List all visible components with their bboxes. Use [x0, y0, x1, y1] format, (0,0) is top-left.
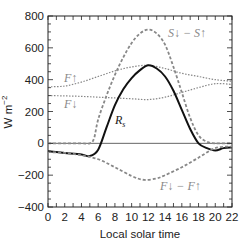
x-tick-label: 12 — [142, 211, 155, 223]
y-tick-label: 200 — [25, 106, 44, 118]
y-tick-label: 800 — [25, 10, 44, 22]
x-axis-label: Local solar time — [100, 228, 181, 240]
x-tick-label: 0 — [45, 211, 51, 223]
annotation-f-net: F↓ − F↑ — [159, 179, 201, 193]
series-ss-line — [48, 30, 232, 144]
x-tick-label: 2 — [62, 211, 68, 223]
x-tick-label: 4 — [78, 211, 85, 223]
x-tick-label: 20 — [209, 211, 222, 223]
y-tick-label: 600 — [25, 42, 44, 54]
y-tick-label: 400 — [25, 74, 44, 86]
y-tick-label: −400 — [18, 201, 44, 213]
y-axis-label: W m−2 — [0, 95, 14, 128]
annotation-s-net: S↓ − S↑ — [168, 26, 206, 40]
annotation-f-up: F↑ — [63, 71, 77, 85]
y-tick-label: −200 — [18, 169, 44, 181]
x-tick-label: 14 — [159, 211, 172, 223]
annotation-f-down: F↓ — [63, 97, 77, 111]
x-tick-label: 8 — [112, 211, 118, 223]
series-ff-line — [48, 147, 232, 181]
x-tick-label: 18 — [192, 211, 205, 223]
x-tick-label: 6 — [95, 211, 101, 223]
plot-area — [48, 16, 232, 207]
chart: 0246810121416182022−400−2000200400600800… — [0, 0, 249, 246]
x-tick-label: 10 — [125, 211, 138, 223]
x-tick-label: 22 — [226, 211, 239, 223]
axis-ticks: 0246810121416182022−400−2000200400600800 — [18, 10, 238, 223]
annotation-rs: Rs — [114, 113, 125, 129]
y-tick-label: 0 — [38, 137, 44, 149]
x-tick-label: 16 — [175, 211, 188, 223]
